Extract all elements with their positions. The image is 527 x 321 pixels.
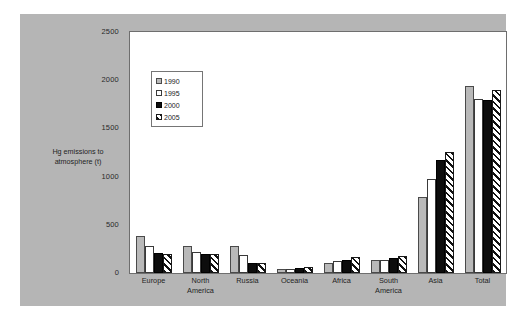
bar-europe-1995: [145, 246, 154, 273]
bar-south-america-2000: [389, 258, 398, 273]
bar-group-europe: [130, 32, 177, 273]
x-label-line: Russia: [236, 276, 258, 286]
x-label-south-america: SouthAmerica: [375, 276, 402, 295]
bar-total-1990: [465, 86, 474, 273]
legend-swatch-icon-2005: [156, 114, 162, 120]
bar-africa-1990: [324, 263, 333, 273]
bar-africa-1995: [333, 261, 342, 273]
bar-group-oceania: [271, 32, 318, 273]
x-label-north-america: NorthAmerica: [187, 276, 214, 295]
y-axis-tick-0: 0: [115, 268, 119, 277]
bar-south-america-1995: [380, 260, 389, 273]
legend-swatch-icon-1990: [156, 78, 162, 84]
x-label-total: Total: [475, 276, 490, 286]
bar-oceania-1995: [286, 269, 295, 273]
bar-russia-2000: [248, 263, 257, 273]
figure-canvas: 05001000150020002500 Hg emissions to atm…: [0, 0, 527, 321]
bar-asia-1990: [418, 197, 427, 273]
bar-europe-2005: [163, 254, 172, 273]
y-axis-tick-1000: 1000: [102, 171, 120, 180]
bar-total-2000: [483, 100, 492, 273]
legend-label-2000: 2000: [164, 102, 180, 109]
legend-item-1995[interactable]: 1995: [156, 88, 198, 98]
y-axis-title-line-2: atmosphere (t): [32, 157, 124, 167]
bar-oceania-2000: [295, 268, 304, 273]
bar-total-1995: [474, 99, 483, 273]
bars-layer: [130, 32, 506, 273]
y-axis-tick-2500: 2500: [102, 27, 120, 36]
bar-group-north-america: [177, 32, 224, 273]
chart-outer-frame: 05001000150020002500 Hg emissions to atm…: [20, 14, 506, 306]
x-label-line: Oceania: [281, 276, 308, 286]
x-label-africa: Africa: [332, 276, 351, 286]
legend-label-1990: 1990: [164, 78, 180, 85]
bar-oceania-2005: [304, 267, 313, 273]
x-axis-category-labels: EuropeNorthAmericaRussiaOceaniaAfricaSou…: [130, 276, 506, 310]
bar-group-africa: [318, 32, 365, 273]
legend-item-2000[interactable]: 2000: [156, 100, 198, 110]
x-label-line: Total: [475, 276, 490, 286]
y-axis-tick-500: 500: [106, 219, 119, 228]
bar-group-asia: [412, 32, 459, 273]
x-label-line: South: [375, 276, 402, 286]
bar-total-2005: [492, 90, 501, 273]
bar-europe-1990: [136, 236, 145, 273]
x-label-europe: Europe: [142, 276, 166, 286]
legend-label-1995: 1995: [164, 90, 180, 97]
x-label-line: America: [187, 286, 214, 296]
x-label-oceania: Oceania: [281, 276, 308, 286]
bar-south-america-1990: [371, 260, 380, 273]
bar-south-america-2005: [398, 256, 407, 273]
legend-label-2005: 2005: [164, 114, 180, 121]
bar-africa-2000: [342, 260, 351, 273]
y-axis-title: Hg emissions to atmosphere (t): [32, 147, 124, 166]
bar-russia-2005: [257, 263, 266, 273]
x-label-asia: Asia: [428, 276, 442, 286]
bar-group-south-america: [365, 32, 412, 273]
y-axis-tick-1500: 1500: [102, 123, 120, 132]
bar-oceania-1990: [277, 269, 286, 273]
x-label-line: Africa: [332, 276, 351, 286]
y-axis-tick-2000: 2000: [102, 75, 120, 84]
bar-north-america-1995: [192, 252, 201, 273]
legend-swatch-icon-2000: [156, 102, 162, 108]
bar-group-total: [459, 32, 506, 273]
legend-item-2005[interactable]: 2005: [156, 112, 198, 122]
bar-asia-2000: [436, 160, 445, 273]
x-label-russia: Russia: [236, 276, 258, 286]
legend[interactable]: 1990199520002005: [151, 71, 203, 127]
x-label-line: America: [375, 286, 402, 296]
bar-north-america-1990: [183, 246, 192, 273]
bar-north-america-2000: [201, 254, 210, 273]
legend-item-1990[interactable]: 1990: [156, 76, 198, 86]
x-label-line: Europe: [142, 276, 166, 286]
bar-europe-2000: [154, 253, 163, 273]
y-axis-title-line-1: Hg emissions to: [32, 147, 124, 157]
bar-russia-1990: [230, 246, 239, 273]
bar-group-russia: [224, 32, 271, 273]
bar-north-america-2005: [210, 254, 219, 273]
x-label-line: North: [187, 276, 214, 286]
bar-russia-1995: [239, 255, 248, 273]
bar-africa-2005: [351, 257, 360, 273]
bar-asia-2005: [445, 152, 454, 273]
legend-swatch-icon-1995: [156, 90, 162, 96]
x-label-line: Asia: [428, 276, 442, 286]
bar-asia-1995: [427, 179, 436, 273]
